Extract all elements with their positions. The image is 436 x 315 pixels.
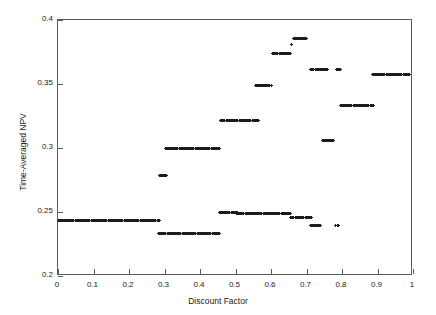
data-point bbox=[405, 73, 408, 76]
x-axis-tick-label: 0.6 bbox=[264, 281, 275, 289]
data-point bbox=[305, 37, 308, 40]
data-point bbox=[256, 212, 259, 215]
data-point bbox=[131, 219, 134, 222]
data-point bbox=[331, 139, 334, 142]
data-point bbox=[365, 104, 368, 107]
data-point bbox=[174, 232, 177, 235]
data-point bbox=[198, 232, 201, 235]
data-point bbox=[315, 68, 318, 71]
data-point bbox=[251, 212, 254, 215]
data-point bbox=[248, 119, 251, 122]
data-point bbox=[211, 232, 214, 235]
data-point bbox=[249, 212, 252, 215]
chart-figure: Discount Factor Time-Averaged NPV 0.20.2… bbox=[0, 0, 436, 315]
data-point bbox=[272, 212, 275, 215]
data-point bbox=[297, 37, 300, 40]
data-point bbox=[214, 232, 217, 235]
data-point bbox=[216, 147, 219, 150]
data-point bbox=[264, 84, 267, 87]
data-point bbox=[192, 232, 195, 235]
data-point bbox=[278, 52, 281, 55]
data-point bbox=[267, 84, 270, 87]
data-point bbox=[403, 73, 406, 76]
data-point bbox=[254, 84, 257, 87]
data-point bbox=[310, 216, 313, 219]
data-point bbox=[275, 212, 278, 215]
data-point bbox=[258, 212, 261, 215]
data-point bbox=[227, 211, 230, 214]
data-point bbox=[176, 232, 179, 235]
data-point bbox=[337, 224, 340, 227]
data-point bbox=[276, 52, 279, 55]
data-point bbox=[135, 219, 138, 222]
data-point bbox=[328, 139, 331, 142]
data-point bbox=[273, 52, 276, 55]
data-point bbox=[74, 219, 77, 222]
data-point bbox=[270, 212, 273, 215]
data-point bbox=[265, 84, 268, 87]
data-point bbox=[157, 219, 160, 222]
data-point bbox=[344, 104, 347, 107]
data-point bbox=[174, 147, 177, 150]
data-point bbox=[325, 68, 328, 71]
data-point bbox=[240, 212, 243, 215]
data-point bbox=[86, 219, 89, 222]
data-point bbox=[255, 212, 258, 215]
data-point bbox=[309, 68, 312, 71]
data-point bbox=[311, 68, 314, 71]
data-point bbox=[101, 219, 104, 222]
data-point bbox=[158, 219, 161, 222]
x-axis-tick bbox=[58, 269, 59, 274]
data-point bbox=[178, 147, 181, 150]
data-point bbox=[317, 68, 320, 71]
data-point bbox=[116, 219, 119, 222]
data-point bbox=[153, 219, 156, 222]
data-point bbox=[230, 211, 233, 214]
data-point bbox=[209, 232, 212, 235]
data-point bbox=[192, 147, 195, 150]
data-point bbox=[373, 73, 376, 76]
data-point bbox=[226, 119, 229, 122]
data-point bbox=[189, 232, 192, 235]
data-point bbox=[175, 232, 178, 235]
data-point bbox=[200, 232, 203, 235]
data-point bbox=[139, 219, 142, 222]
data-point bbox=[194, 147, 197, 150]
data-point bbox=[297, 216, 300, 219]
data-point bbox=[347, 104, 350, 107]
data-point bbox=[129, 219, 132, 222]
data-point bbox=[180, 147, 183, 150]
data-point bbox=[232, 119, 235, 122]
data-point bbox=[172, 147, 175, 150]
data-point bbox=[172, 232, 175, 235]
data-point bbox=[289, 52, 292, 55]
data-point bbox=[345, 104, 348, 107]
data-point bbox=[301, 216, 304, 219]
data-point bbox=[322, 68, 325, 71]
data-point bbox=[71, 219, 74, 222]
data-point bbox=[288, 212, 291, 215]
data-point bbox=[245, 212, 248, 215]
data-point bbox=[216, 232, 219, 235]
data-point bbox=[220, 211, 223, 214]
data-point bbox=[109, 219, 112, 222]
y-axis-tick-label: 0.3 bbox=[0, 143, 53, 151]
x-axis-tick bbox=[129, 269, 130, 274]
data-point bbox=[282, 52, 285, 55]
data-point bbox=[75, 219, 78, 222]
data-point bbox=[357, 104, 360, 107]
data-point bbox=[283, 212, 286, 215]
data-point bbox=[193, 232, 196, 235]
data-point bbox=[316, 68, 319, 71]
data-point bbox=[173, 232, 176, 235]
data-point bbox=[117, 219, 120, 222]
data-point bbox=[189, 147, 192, 150]
data-point bbox=[323, 68, 326, 71]
data-point bbox=[120, 219, 123, 222]
x-axis-tick bbox=[342, 269, 343, 274]
data-point bbox=[317, 224, 320, 227]
data-point bbox=[388, 73, 391, 76]
y-axis-tick-label: 0.2 bbox=[0, 271, 53, 279]
data-point bbox=[99, 219, 102, 222]
data-point bbox=[147, 219, 150, 222]
